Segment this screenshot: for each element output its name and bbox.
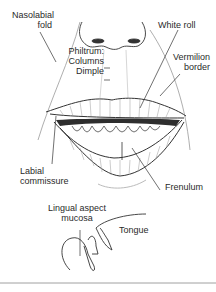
label-labial-commissure: Labial commissure bbox=[20, 166, 69, 186]
mouth-interior bbox=[56, 119, 180, 127]
label-text: mucosa bbox=[44, 213, 110, 223]
label-philtrum: Philtrum: Columns Dimple bbox=[62, 46, 104, 76]
label-nasolabial-fold: Nasolabial fold bbox=[12, 10, 52, 30]
label-text: Vermilion bbox=[160, 52, 210, 62]
label-text: fold bbox=[12, 20, 52, 30]
label-text: border bbox=[160, 62, 210, 72]
label-text: Philtrum: bbox=[62, 46, 104, 56]
upper-lip bbox=[46, 98, 186, 118]
upper-lip-hatch bbox=[60, 98, 170, 117]
label-frenulum: Frenulum bbox=[165, 182, 203, 192]
label-text: Lingual aspect bbox=[44, 203, 110, 213]
label-text: Nasolabial bbox=[12, 10, 52, 20]
lip-anatomy-diagram: Nasolabial fold Philtrum: Columns Dimple… bbox=[0, 0, 216, 292]
label-text: commissure bbox=[20, 176, 69, 186]
nasolabial-fold-lines bbox=[38, 22, 190, 150]
label-white-roll: White roll bbox=[158, 20, 196, 30]
label-columns: Columns bbox=[62, 56, 104, 66]
illustration bbox=[0, 0, 216, 292]
label-tongue: Tongue bbox=[119, 225, 149, 235]
label-vermilion-border: Vermilion border bbox=[160, 52, 210, 72]
philtrum-lines bbox=[100, 50, 128, 98]
label-lingual-aspect-mucosa: Lingual aspect mucosa bbox=[44, 203, 110, 223]
label-text: Labial bbox=[20, 166, 69, 176]
lower-lip-hatch bbox=[70, 136, 170, 176]
label-dimple: Dimple bbox=[62, 66, 104, 76]
teeth bbox=[72, 126, 160, 132]
